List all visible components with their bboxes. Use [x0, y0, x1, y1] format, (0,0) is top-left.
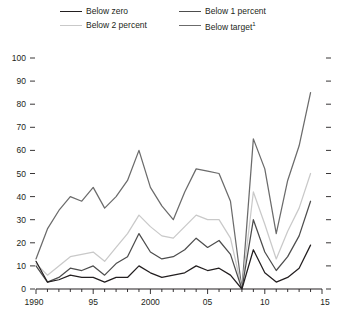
legend-label-below-1-percent: Below 1 percent	[205, 6, 266, 17]
legend-swatch-below-2-percent	[60, 25, 82, 26]
y-tick-label: 60	[17, 145, 27, 155]
legend-text-below-target: Below target	[205, 22, 252, 32]
legend-swatch-below-1-percent	[179, 11, 201, 12]
legend-footnote-marker: 1	[252, 21, 255, 27]
legend-item-below-1-percent: Below 1 percent	[179, 6, 290, 17]
data-series-group	[36, 93, 311, 289]
legend-item-below-target: Below target1	[179, 19, 290, 33]
x-tick-label: 2000	[141, 297, 160, 306]
x-tick-label: 15	[320, 297, 330, 306]
legend-label-below-2-percent: Below 2 percent	[86, 20, 147, 31]
x-tick-label: 95	[88, 297, 98, 306]
y-tick-label: 30	[17, 215, 27, 225]
legend-swatch-below-target	[179, 25, 201, 26]
y-tick-label: 100	[12, 53, 26, 63]
y-axis: 0102030405060708090100	[12, 53, 331, 294]
y-tick-label: 90	[17, 76, 27, 86]
legend-item-below-zero: Below zero	[60, 6, 171, 17]
x-tick-label: 05	[203, 297, 213, 306]
y-tick-label: 50	[17, 169, 27, 179]
y-tick-label: 20	[17, 238, 27, 248]
x-tick-label: 1990	[25, 297, 44, 306]
legend-item-below-2-percent: Below 2 percent	[60, 19, 171, 33]
chart-svg: 0102030405060708090100 1990952000051015	[0, 46, 345, 306]
series-line-below-2-percent	[36, 174, 311, 290]
series-line-below-zero	[36, 245, 311, 289]
plot-area: 0102030405060708090100 1990952000051015	[0, 46, 345, 306]
legend-label-below-zero: Below zero	[86, 6, 128, 17]
y-tick-label: 40	[17, 192, 27, 202]
y-tick-label: 80	[17, 99, 27, 109]
chart-legend: Below zero Below 1 percent Below 2 perce…	[60, 6, 290, 33]
y-tick-label: 0	[21, 284, 26, 294]
x-axis: 1990952000051015	[25, 289, 330, 306]
y-tick-label: 10	[17, 261, 27, 271]
y-tick-label: 70	[17, 122, 27, 132]
legend-label-below-target: Below target1	[205, 19, 256, 33]
x-tick-label: 10	[260, 297, 270, 306]
legend-swatch-below-zero	[60, 11, 82, 12]
line-chart: Below zero Below 1 percent Below 2 perce…	[0, 0, 345, 313]
